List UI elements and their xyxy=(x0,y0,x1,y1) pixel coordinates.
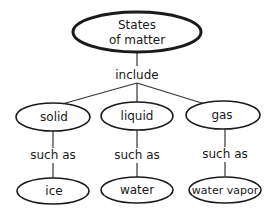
solid-label: solid xyxy=(40,110,68,124)
gas-link-label: such as xyxy=(202,147,247,161)
concept-map: States of matter include solid such as i… xyxy=(0,0,278,223)
root-label-line1: States xyxy=(118,18,156,32)
state-node-liquid: liquid xyxy=(101,102,173,130)
example-node-ice: ice xyxy=(17,178,89,204)
water-vapor-label: water vapor xyxy=(192,184,259,197)
liquid-link-label: such as xyxy=(114,148,159,162)
example-node-water: water xyxy=(101,177,173,203)
edge-include-solid xyxy=(62,83,137,104)
solid-link-label: such as xyxy=(30,148,75,162)
example-node-water-vapor: water vapor xyxy=(189,177,261,203)
root-link-label: include xyxy=(115,68,158,82)
state-node-solid: solid xyxy=(16,103,90,131)
liquid-label: liquid xyxy=(121,109,154,123)
root-label-line2: of matter xyxy=(109,33,165,47)
edge-include-gas xyxy=(137,83,205,104)
water-label: water xyxy=(120,183,154,197)
state-node-gas: gas xyxy=(186,101,260,129)
gas-label: gas xyxy=(211,108,232,122)
root-node: States of matter xyxy=(73,12,201,52)
ice-label: ice xyxy=(45,184,62,198)
